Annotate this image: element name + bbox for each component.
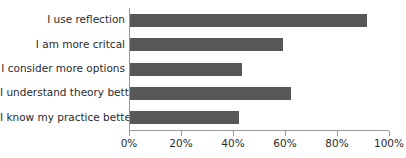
bar-series <box>130 8 390 130</box>
category-label: I use reflection <box>0 14 125 25</box>
x-tick <box>233 131 234 136</box>
x-tick <box>181 131 182 136</box>
x-axis-tick-labels: 0%20%40%60%80%100% <box>0 137 406 153</box>
bar-chart: I use reflectionI am more critcalI consi… <box>0 0 406 158</box>
category-label: I know my practice better <box>0 112 125 123</box>
bar <box>130 14 367 27</box>
x-tick-label: 80% <box>325 137 348 150</box>
x-tick <box>337 131 338 136</box>
x-tick-label: 20% <box>169 137 192 150</box>
bar <box>130 63 242 76</box>
category-axis-labels: I use reflectionI am more critcalI consi… <box>0 8 125 130</box>
x-tick <box>285 131 286 136</box>
x-tick <box>129 131 130 136</box>
x-tick <box>389 131 390 136</box>
bar <box>130 38 283 51</box>
category-label: I understand theory better <box>0 87 125 98</box>
category-label: I am more critcal <box>0 39 125 50</box>
x-tick-label: 100% <box>374 137 404 150</box>
x-tick-label: 60% <box>273 137 296 150</box>
x-tick-label: 0% <box>121 137 138 150</box>
bar <box>130 87 291 100</box>
bar <box>130 111 239 124</box>
category-label: I consider more options <box>0 63 125 74</box>
x-tick-label: 40% <box>221 137 244 150</box>
